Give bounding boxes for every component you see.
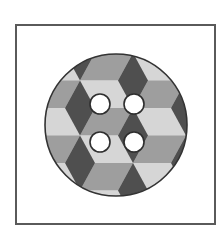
- hole-top-left: [90, 94, 110, 114]
- hole-bottom-left: [90, 132, 110, 152]
- hole-bottom-right: [124, 132, 144, 152]
- button-illustration: [0, 0, 223, 239]
- button: [40, 50, 195, 205]
- tumbling-blocks-pattern: [40, 50, 195, 205]
- hole-top-right: [124, 94, 144, 114]
